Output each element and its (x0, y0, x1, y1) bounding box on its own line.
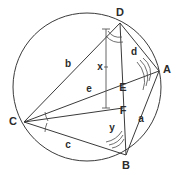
chord-D-A (120, 23, 159, 71)
segment-C-F (24, 108, 123, 122)
vertex-label-B: B (122, 159, 130, 171)
vertex-label-E: E (119, 81, 126, 93)
segment-label-a: a (138, 113, 144, 124)
segment-label-x: x (97, 61, 103, 72)
segment-label-e: e (86, 83, 92, 94)
angle-mark-at-C-lower (45, 123, 47, 132)
geometry-canvas: D A C B E F b x d e a y c (0, 0, 176, 175)
segment-label-y: y (109, 122, 115, 133)
angle-mark-at-A (137, 58, 151, 90)
segment-label-d: d (131, 46, 137, 57)
vertex-label-A: A (163, 63, 171, 75)
vertex-label-D: D (116, 6, 124, 18)
segment-label-b: b (65, 58, 71, 69)
angle-mark-at-B (106, 131, 124, 148)
segment-label-c: c (65, 139, 71, 150)
vertex-label-F: F (120, 104, 127, 116)
geometry-figure: D A C B E F b x d e a y c (0, 0, 176, 175)
vertex-label-C: C (9, 115, 17, 127)
